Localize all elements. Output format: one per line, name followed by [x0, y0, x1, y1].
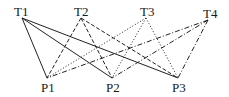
labels-group: T1T2T3T4P1P2P3 [14, 4, 218, 95]
node-label-t4: T4 [203, 6, 218, 21]
edge-t4-p2 [112, 20, 208, 78]
node-label-t1: T1 [14, 4, 28, 19]
node-label-p1: P1 [41, 80, 55, 95]
node-label-t2: T2 [74, 4, 88, 19]
edge-t1-p2 [22, 18, 112, 78]
node-label-p2: P2 [106, 80, 120, 95]
edge-t1-p1 [22, 18, 47, 78]
node-label-t3: T3 [140, 4, 154, 19]
edges-group [22, 18, 208, 78]
node-label-p3: P3 [172, 80, 186, 95]
edge-t1-p3 [22, 18, 178, 78]
bipartite-diagram: T1T2T3T4P1P2P3 [0, 0, 229, 97]
edge-t2-p1 [47, 18, 81, 78]
